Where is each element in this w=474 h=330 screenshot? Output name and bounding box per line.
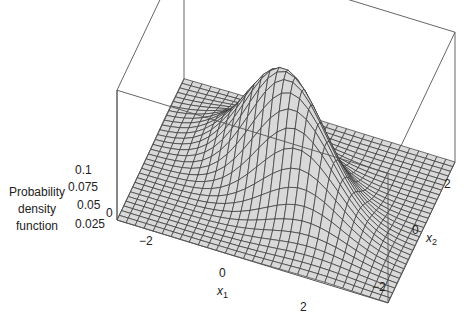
z-axis-title: Probability density function — [4, 184, 70, 235]
z-title-line-2: density — [4, 201, 70, 218]
z-tick-0: 0 — [106, 207, 113, 219]
x-axis-title: x1 — [217, 285, 228, 300]
z-tick-0.075: 0.075 — [68, 181, 98, 193]
box-edge — [117, 0, 184, 90]
x-tick-0: 0 — [219, 267, 226, 279]
z-title-line-1: Probability — [4, 184, 70, 201]
box-edge — [184, 0, 455, 32]
y-axis-title: x2 — [426, 232, 437, 247]
y-tick-0: 0 — [412, 224, 419, 236]
y-tick--2: −2 — [372, 281, 386, 293]
z-tick-0.025: 0.025 — [75, 218, 105, 230]
surface-mesh — [117, 67, 455, 302]
y-tick-2: 2 — [444, 178, 451, 190]
z-tick-0.05: 0.05 — [77, 199, 100, 211]
x-tick--2: −2 — [139, 235, 153, 247]
z-title-line-3: function — [4, 218, 70, 235]
surface-plot — [0, 0, 474, 330]
z-tick-0.1: 0.1 — [75, 164, 92, 176]
x-tick-2: 2 — [300, 301, 307, 313]
